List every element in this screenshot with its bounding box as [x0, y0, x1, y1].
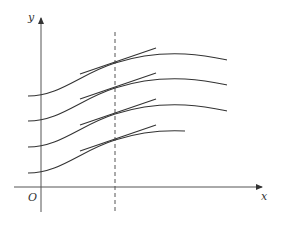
diagram-canvas: y x O	[0, 0, 281, 227]
tangent-line-2	[80, 73, 156, 99]
y-axis-label: y	[27, 11, 35, 24]
curve-3	[28, 99, 227, 147]
curve-2	[28, 73, 227, 121]
x-axis-label: x	[261, 190, 268, 203]
tangent-line-1	[80, 48, 156, 74]
origin-label: O	[28, 191, 37, 204]
curve-1	[28, 48, 227, 96]
tangent-line-3	[80, 99, 156, 125]
curve-4	[28, 125, 185, 173]
tangent-line-4	[80, 125, 156, 151]
